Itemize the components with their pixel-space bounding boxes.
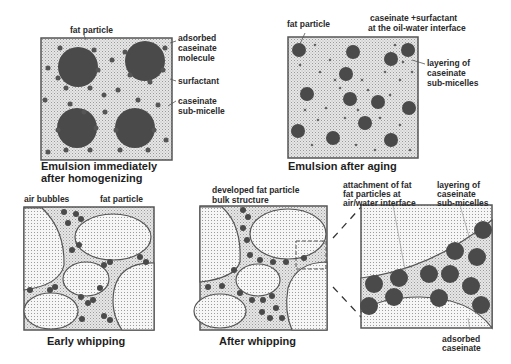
label-adsorbed-2: caseinate	[178, 43, 217, 53]
caption-emulsion-1: Emulsion immediately	[41, 160, 157, 173]
panel-early-whipping	[24, 207, 154, 330]
label-layering5-3: sub-micelles	[437, 198, 489, 208]
label-developed-2: bulk structure	[212, 195, 269, 205]
panel-emulsion-homogenized	[41, 35, 176, 160]
label-layering-2: caseinate	[427, 68, 466, 78]
label-layering-1: layering of	[427, 58, 470, 68]
label-air-bubbles: air bubbles	[24, 194, 69, 204]
label-submicelle-1: caseinate	[178, 96, 217, 106]
panel-interface-detail	[360, 205, 492, 330]
label-fat-particle-2: fat particle	[287, 19, 330, 29]
label-fat-particle-1: fat particle	[70, 25, 113, 35]
caption-aged: Emulsion after aging	[288, 160, 397, 173]
label-submicelle-2: sub-micelle	[178, 106, 225, 116]
label-surfactant: surfactant	[178, 76, 219, 86]
label-layering-3: sub-micelles	[427, 78, 479, 88]
label-adsorbed5-2: caseinate	[442, 343, 481, 353]
label-adsorbed-3: molecule	[178, 53, 215, 63]
label-fat-particle-3: fat particle	[100, 194, 143, 204]
panel-emulsion-aged	[288, 33, 425, 158]
caption-after-whipping: After whipping	[219, 335, 296, 348]
caption-emulsion-2: after homogenizing	[41, 172, 142, 185]
label-interface-2: at the oil-water interface	[368, 23, 466, 33]
caption-early-whipping: Early whipping	[47, 335, 125, 348]
label-interface-1: caseinate +surfactant	[370, 13, 457, 23]
label-developed-1: developed fat particle	[212, 185, 299, 195]
panel-after-whipping	[194, 206, 362, 330]
label-adsorbed-1: adsorbed	[178, 33, 216, 43]
label-attachment-3: air/water interface	[343, 198, 416, 208]
